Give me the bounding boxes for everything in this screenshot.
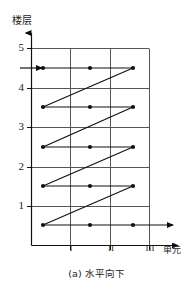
- route-node: [88, 184, 92, 188]
- route-node: [88, 223, 92, 227]
- x-tick-label-1: I: [61, 243, 81, 253]
- figure-caption: (a) 水平向下: [0, 266, 193, 280]
- y-axis-label: 楼层: [12, 12, 32, 27]
- y-tick-label-5: 5: [10, 41, 24, 53]
- y-axis-ticks: [27, 49, 32, 207]
- x-tick-label-2: II: [101, 243, 121, 253]
- route-node: [131, 223, 135, 227]
- route-node: [131, 145, 135, 149]
- figure-container: 楼层 单元 5 4 3 2 1 I II III (a) 水平向下: [0, 0, 193, 295]
- x-axis-label: 单元: [163, 243, 181, 256]
- route-node: [131, 66, 135, 70]
- route-node: [41, 66, 45, 70]
- route-node: [41, 105, 45, 109]
- route-node: [88, 66, 92, 70]
- y-tick-label-1: 1: [10, 199, 24, 211]
- route-node: [88, 145, 92, 149]
- route-node: [131, 184, 135, 188]
- x-tick-label-3: III: [140, 243, 160, 253]
- route-node: [131, 105, 135, 109]
- route-node: [88, 105, 92, 109]
- y-tick-label-4: 4: [10, 81, 24, 93]
- y-tick-label-2: 2: [10, 160, 24, 172]
- grid-horizontal-lines: [31, 49, 149, 207]
- route-node: [41, 145, 45, 149]
- route-node: [41, 223, 45, 227]
- route-node: [41, 184, 45, 188]
- y-tick-label-3: 3: [10, 120, 24, 132]
